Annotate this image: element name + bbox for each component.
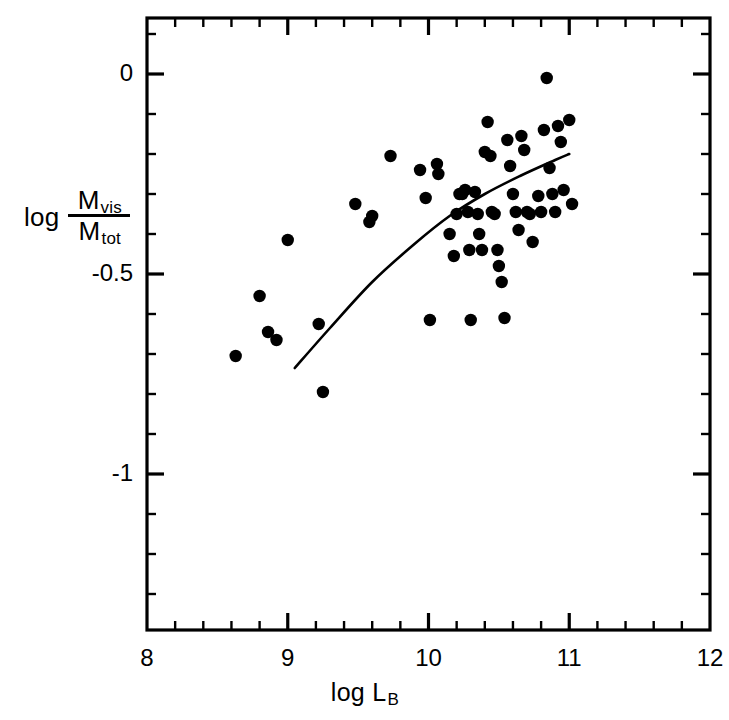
x-axis-label-text: log L <box>331 678 387 706</box>
data-point <box>512 224 524 236</box>
data-point <box>546 188 558 200</box>
x-axis-label-subscript: B <box>388 690 400 709</box>
data-point <box>563 114 575 126</box>
data-point <box>481 116 493 128</box>
x-tick-label: 9 <box>258 646 318 670</box>
data-point <box>566 198 578 210</box>
data-point <box>229 350 241 362</box>
data-point <box>535 206 547 218</box>
y-axis-label-denominator: Mtot <box>75 217 124 245</box>
data-point <box>432 168 444 180</box>
data-point <box>491 244 503 256</box>
data-point <box>465 314 477 326</box>
data-point <box>543 162 555 174</box>
fit-curve <box>295 154 569 368</box>
data-point <box>443 228 455 240</box>
data-point <box>472 208 484 220</box>
y-tick-label: -0.5 <box>45 261 133 285</box>
figure-container: log Mvis Mtot log LB 891011120-0.5-1 <box>0 0 729 720</box>
y-axis-label-denominator-subscript: tot <box>101 229 121 248</box>
data-point <box>557 184 569 196</box>
data-point <box>501 134 513 146</box>
data-point <box>549 206 561 218</box>
data-point <box>493 260 505 272</box>
data-point <box>532 190 544 202</box>
data-point <box>313 318 325 330</box>
x-tick-label: 10 <box>399 646 459 670</box>
data-point <box>484 150 496 162</box>
data-point <box>450 208 462 220</box>
data-point <box>488 208 500 220</box>
x-tick-label: 8 <box>117 646 177 670</box>
y-axis-label-fraction: Mvis Mtot <box>68 186 130 245</box>
y-tick-label: 0 <box>45 61 133 85</box>
data-point <box>473 228 485 240</box>
y-axis-label-log: log <box>24 202 59 230</box>
data-point <box>414 164 426 176</box>
x-tick-label: 11 <box>539 646 599 670</box>
y-tick-label: -1 <box>45 461 133 485</box>
data-point <box>518 144 530 156</box>
data-point <box>555 136 567 148</box>
data-point <box>476 244 488 256</box>
data-point <box>507 188 519 200</box>
data-point <box>541 72 553 84</box>
data-point <box>317 386 329 398</box>
data-point <box>510 206 522 218</box>
data-points <box>229 72 578 398</box>
data-point <box>538 124 550 136</box>
scatter-plot <box>0 0 729 720</box>
data-point <box>419 192 431 204</box>
x-tick-label: 12 <box>680 646 729 670</box>
data-point <box>524 208 536 220</box>
data-point <box>526 236 538 248</box>
data-point <box>349 198 361 210</box>
data-point <box>270 334 282 346</box>
y-axis-label: log Mvis Mtot <box>24 186 130 245</box>
data-point <box>253 290 265 302</box>
data-point <box>384 150 396 162</box>
data-point <box>552 120 564 132</box>
data-point <box>498 312 510 324</box>
x-axis-label: log LB <box>0 678 729 707</box>
data-point <box>504 160 516 172</box>
data-point <box>495 276 507 288</box>
data-point <box>282 234 294 246</box>
data-point <box>463 244 475 256</box>
y-axis-label-numerator: Mvis <box>74 186 125 214</box>
data-point <box>424 314 436 326</box>
data-point <box>515 130 527 142</box>
data-point <box>469 186 481 198</box>
y-axis-label-numerator-subscript: vis <box>101 198 122 217</box>
data-point <box>366 210 378 222</box>
data-point <box>448 250 460 262</box>
